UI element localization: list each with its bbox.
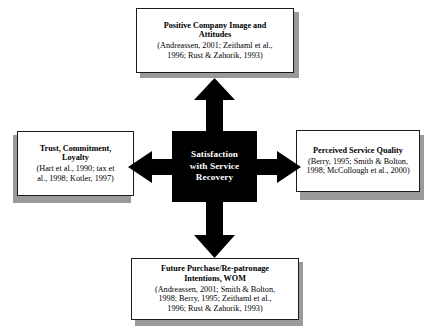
node-trust-commitment-loyalty[interactable]: Trust, Commitment, Loyalty (Hart et al.,… [13, 131, 135, 203]
node-title-line-1: Positive Company Image and [164, 21, 267, 31]
node-citation-line-1: (Andreassen, 2001; Zeithaml et al., [157, 41, 272, 51]
node-citation-line-1: (Berry, 1995; Smith & Bolton, [306, 157, 409, 167]
node-title: Positive Company Image and Attitudes [164, 21, 267, 40]
node-title: Perceived Service Quality [313, 146, 403, 156]
node-citation-line-2: 1998; Berry, 1995; Zeithaml et al., [155, 294, 275, 304]
arrow-left-icon [128, 151, 174, 183]
node-face: Perceived Service Quality (Berry, 1995; … [296, 130, 420, 192]
arrow-right-icon [255, 151, 301, 183]
node-citation: (Hart et al., 1990; tax et al., 1998; Ko… [37, 164, 115, 183]
node-title-line-2: Intentions, WOM [161, 274, 269, 284]
center-label-line-2: with Service [190, 161, 239, 173]
node-face: Positive Company Image and Attitudes (An… [136, 8, 294, 73]
node-face: Trust, Commitment, Loyalty (Hart et al.,… [17, 131, 134, 196]
node-face: Future Purchase/Re-patronage Intentions,… [131, 258, 299, 320]
arrow-down-icon [194, 200, 235, 258]
node-citation-line-2: al., 1998; Kotler, 1997) [37, 174, 115, 184]
node-perceived-service-quality[interactable]: Perceived Service Quality (Berry, 1995; … [296, 130, 424, 200]
node-title-line-1: Future Purchase/Re-patronage [161, 264, 269, 274]
node-citation: (Andreassen, 2001; Smith & Bolton, 1998;… [155, 285, 275, 314]
node-citation: (Berry, 1995; Smith & Bolton, 1998; McCo… [306, 157, 409, 176]
node-citation-line-2: 1998; McCollough et al., 2000) [306, 166, 409, 176]
center-label-line-3: Recovery [190, 172, 239, 184]
center-label-line-1: Satisfaction [190, 149, 239, 161]
node-future-purchase-intentions[interactable]: Future Purchase/Re-patronage Intentions,… [131, 258, 303, 326]
node-title: Trust, Commitment, Loyalty [40, 144, 111, 163]
node-title-line-1: Perceived Service Quality [313, 146, 403, 156]
concept-diagram: Positive Company Image and Attitudes (An… [0, 0, 429, 330]
node-citation: (Andreassen, 2001; Zeithaml et al., 1996… [157, 41, 272, 60]
node-citation-line-1: (Hart et al., 1990; tax et [37, 164, 115, 174]
arrow-up-icon [194, 78, 235, 133]
node-citation-line-2: 1996; Rust & Zahorik, 1993) [157, 51, 272, 61]
node-title-line-2: Attitudes [164, 30, 267, 40]
node-title-line-1: Trust, Commitment, [40, 144, 111, 154]
node-citation-line-1: (Andreassen, 2001; Smith & Bolton, [155, 285, 275, 295]
node-citation-line-3: 1996; Rust & Zahorik, 1993) [155, 304, 275, 314]
node-title-line-2: Loyalty [40, 153, 111, 163]
node-title: Future Purchase/Re-patronage Intentions,… [161, 264, 269, 283]
center-node-label: Satisfaction with Service Recovery [190, 149, 239, 185]
node-positive-company-image[interactable]: Positive Company Image and Attitudes (An… [136, 8, 299, 78]
node-satisfaction-with-service-recovery[interactable]: Satisfaction with Service Recovery [172, 131, 257, 202]
